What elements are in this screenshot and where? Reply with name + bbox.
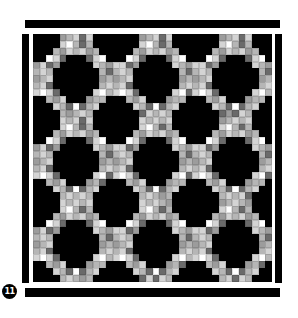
figure-number-badge: 11 (2, 284, 17, 299)
frame-top-bar (25, 20, 280, 28)
quilt-octagon-pattern (33, 34, 272, 282)
frame-left-bar (22, 34, 29, 283)
frame-right-bar (275, 34, 282, 283)
octagon-cell (265, 275, 272, 282)
frame-bottom-bar (25, 288, 280, 297)
